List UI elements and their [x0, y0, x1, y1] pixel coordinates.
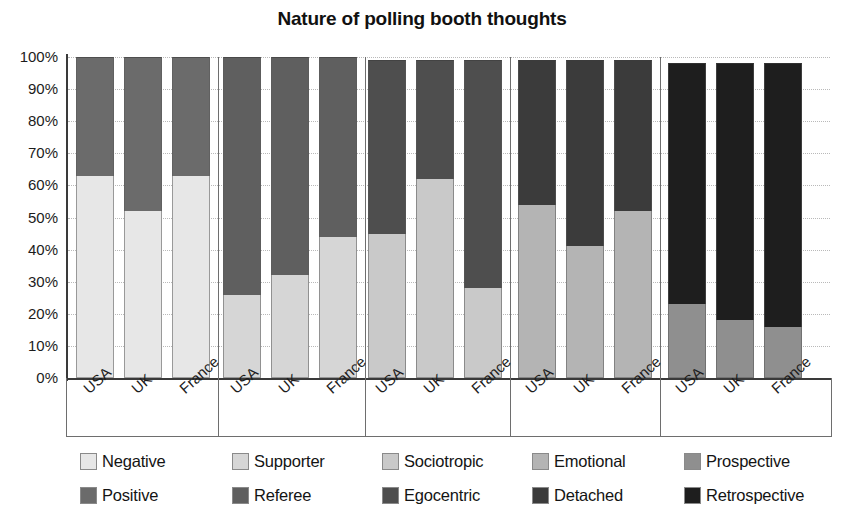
- legend-swatch-icon: [80, 453, 97, 470]
- legend-label: Egocentric: [404, 486, 480, 505]
- stacked-bar[interactable]: [76, 57, 114, 378]
- bar-group: [368, 57, 515, 378]
- stacked-bar[interactable]: [124, 57, 162, 378]
- group-separator-tail: [660, 378, 661, 436]
- group-separator-tail: [218, 378, 219, 436]
- bar-segment-emotional[interactable]: [614, 211, 652, 378]
- y-tick-label: 50%: [28, 210, 58, 225]
- bar-segment-supporter[interactable]: [271, 275, 309, 378]
- y-tick-label: 80%: [28, 113, 58, 128]
- bar-segment-retrospective[interactable]: [764, 63, 802, 326]
- bar-segment-prospective[interactable]: [764, 327, 802, 378]
- bar-segment-negative[interactable]: [76, 176, 114, 378]
- legend-item[interactable]: Detached: [532, 486, 623, 505]
- bar-segment-positive[interactable]: [172, 57, 210, 176]
- legend-item[interactable]: Referee: [232, 486, 311, 505]
- bar-segment-prospective[interactable]: [716, 320, 754, 378]
- bar-segment-positive[interactable]: [124, 57, 162, 211]
- y-tick-label: 0%: [36, 370, 58, 385]
- category-axis-right-edge: [831, 378, 832, 436]
- legend-item[interactable]: Prospective: [684, 452, 790, 471]
- bar-segment-referee[interactable]: [223, 57, 261, 295]
- bar-group: [668, 57, 815, 378]
- bar-segment-supporter[interactable]: [223, 295, 261, 378]
- legend-swatch-icon: [232, 487, 249, 504]
- legend-swatch-icon: [532, 487, 549, 504]
- group-separator: [218, 57, 219, 378]
- bar-segment-emotional[interactable]: [518, 205, 556, 378]
- stacked-bar[interactable]: [518, 60, 556, 378]
- legend-item[interactable]: Emotional: [532, 452, 626, 471]
- bar-segment-sociotropic[interactable]: [464, 288, 502, 378]
- legend-label: Prospective: [706, 452, 790, 471]
- stacked-bar[interactable]: [668, 63, 706, 378]
- stacked-bar[interactable]: [566, 60, 604, 378]
- legend-item[interactable]: Negative: [80, 452, 166, 471]
- y-tick-label: 60%: [28, 177, 58, 192]
- y-tick-label: 40%: [28, 242, 58, 257]
- stacked-bar[interactable]: [368, 60, 406, 378]
- chart-legend: NegativeSupporterSociotropicEmotionalPro…: [0, 452, 844, 522]
- legend-swatch-icon: [684, 453, 701, 470]
- bar-segment-egocentric[interactable]: [416, 60, 454, 179]
- bar-group: [76, 57, 223, 378]
- legend-item[interactable]: Egocentric: [382, 486, 480, 505]
- y-tick-label: 30%: [28, 274, 58, 289]
- bar-segment-prospective[interactable]: [668, 304, 706, 378]
- legend-item[interactable]: Positive: [80, 486, 158, 505]
- legend-label: Referee: [254, 486, 311, 505]
- bar-segment-detached[interactable]: [518, 60, 556, 204]
- legend-label: Supporter: [254, 452, 325, 471]
- bar-segment-egocentric[interactable]: [464, 60, 502, 288]
- x-axis-line: [66, 378, 832, 380]
- stacked-bar[interactable]: [716, 63, 754, 378]
- legend-swatch-icon: [684, 487, 701, 504]
- bar-segment-negative[interactable]: [172, 176, 210, 378]
- bar-group: [223, 57, 370, 378]
- chart-title: Nature of polling booth thoughts: [0, 8, 844, 30]
- bar-segment-retrospective[interactable]: [716, 63, 754, 320]
- bar-segment-retrospective[interactable]: [668, 63, 706, 304]
- bar-segment-detached[interactable]: [614, 60, 652, 211]
- y-tick-label: 100%: [20, 49, 58, 64]
- stacked-bar[interactable]: [464, 60, 502, 378]
- y-tick-label: 90%: [28, 81, 58, 96]
- legend-label: Negative: [102, 452, 166, 471]
- stacked-bar[interactable]: [416, 60, 454, 378]
- group-separator: [510, 57, 511, 378]
- group-separator: [660, 57, 661, 378]
- plot-area: [68, 57, 830, 378]
- legend-label: Retrospective: [706, 486, 804, 505]
- category-axis-left-edge: [66, 378, 67, 436]
- bar-segment-supporter[interactable]: [319, 237, 357, 378]
- bar-group: [518, 57, 665, 378]
- bar-segment-emotional[interactable]: [566, 246, 604, 378]
- legend-swatch-icon: [232, 453, 249, 470]
- legend-item[interactable]: Supporter: [232, 452, 325, 471]
- legend-swatch-icon: [532, 453, 549, 470]
- bar-segment-referee[interactable]: [319, 57, 357, 237]
- legend-label: Emotional: [554, 452, 626, 471]
- y-tick-label: 10%: [28, 338, 58, 353]
- y-tick-label: 20%: [28, 306, 58, 321]
- stacked-bar[interactable]: [319, 57, 357, 378]
- group-separator-tail: [510, 378, 511, 436]
- legend-swatch-icon: [382, 453, 399, 470]
- legend-item[interactable]: Retrospective: [684, 486, 804, 505]
- bar-segment-referee[interactable]: [271, 57, 309, 275]
- bar-segment-negative[interactable]: [124, 211, 162, 378]
- category-axis-baseline: [66, 436, 832, 437]
- stacked-bar[interactable]: [614, 60, 652, 378]
- bar-segment-positive[interactable]: [76, 57, 114, 176]
- bar-segment-sociotropic[interactable]: [416, 179, 454, 378]
- bar-segment-egocentric[interactable]: [368, 60, 406, 233]
- group-separator-tail: [365, 378, 366, 436]
- stacked-bar[interactable]: [764, 63, 802, 378]
- bar-segment-detached[interactable]: [566, 60, 604, 246]
- legend-item[interactable]: Sociotropic: [382, 452, 483, 471]
- stacked-bar[interactable]: [223, 57, 261, 378]
- stacked-bar[interactable]: [172, 57, 210, 378]
- stacked-bar[interactable]: [271, 57, 309, 378]
- bar-segment-sociotropic[interactable]: [368, 234, 406, 378]
- legend-label: Positive: [102, 486, 158, 505]
